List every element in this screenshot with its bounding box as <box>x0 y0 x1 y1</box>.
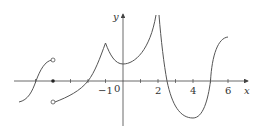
function-graph: −1 0 2 4 6 x y <box>0 0 262 131</box>
tick-label-4: 4 <box>190 85 196 96</box>
tick-label-6: 6 <box>225 85 231 96</box>
x-axis-label: x <box>244 85 250 96</box>
open-circle-upper <box>51 58 55 62</box>
tick-label-2: 2 <box>155 85 161 96</box>
open-circle-lower <box>51 100 55 104</box>
tick-label-0: 0 <box>114 83 120 94</box>
filled-point <box>51 79 55 83</box>
curve-piece-3 <box>159 15 228 118</box>
y-axis-label: y <box>112 11 119 22</box>
tick-label-minus1: −1 <box>98 85 113 96</box>
